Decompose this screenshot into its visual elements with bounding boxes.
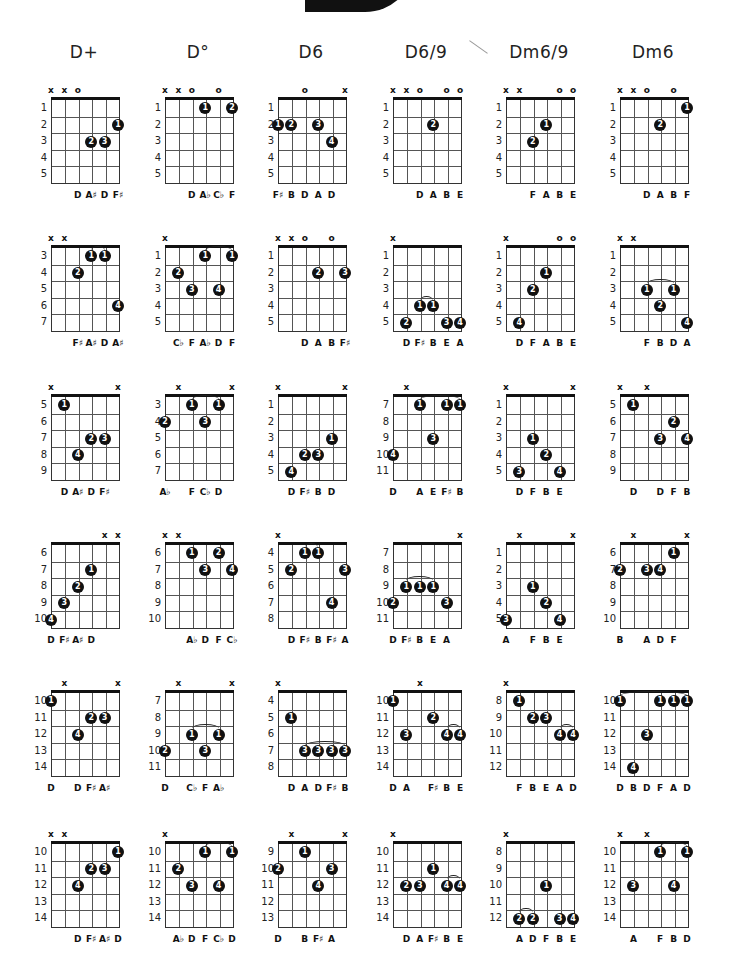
fret-number: 2	[371, 267, 389, 278]
fret-line	[621, 894, 688, 895]
chord-diagram: 89101112x12234ADFBE	[506, 844, 606, 954]
open-string-marker: o	[455, 85, 465, 95]
chord-diagram: 12345xxoo12FABE	[506, 100, 606, 210]
fret-number: 5	[598, 399, 616, 410]
muted-string-marker: x	[113, 530, 123, 540]
fret-line	[166, 281, 233, 282]
fret-line	[166, 430, 233, 431]
fret-line	[621, 166, 688, 167]
note-label: D	[626, 487, 640, 497]
column-title: D6	[256, 42, 366, 62]
finger-dot: 2	[72, 581, 84, 593]
nut	[165, 97, 234, 100]
nut	[278, 97, 347, 100]
fret-number: 3	[598, 283, 616, 294]
string-line	[106, 693, 107, 776]
fret-line	[279, 430, 346, 431]
note-label: E	[453, 190, 467, 200]
string-line	[179, 248, 180, 331]
note-label: A	[413, 934, 427, 944]
note-label: F♯	[71, 338, 85, 348]
chord-diagram: 1011121314xx1234DF♯A♯D	[51, 844, 151, 954]
finger-dot: 4	[654, 564, 666, 576]
string-line	[179, 100, 180, 183]
column-title: D6/9	[371, 42, 481, 62]
nut	[278, 841, 347, 844]
note-label: B	[667, 934, 681, 944]
finger-dot: 1	[668, 284, 680, 296]
muted-string-marker: x	[100, 530, 110, 540]
note-label: C♭	[212, 190, 226, 200]
fret-number: 10	[143, 846, 161, 857]
fret-line	[394, 910, 461, 911]
note-label: D	[399, 338, 413, 348]
note-label: D	[566, 783, 580, 793]
fret-line	[507, 759, 574, 760]
fret-number: 12	[484, 761, 502, 772]
string-line	[661, 100, 662, 183]
note-label: D	[185, 934, 199, 944]
fretboard-grid	[165, 545, 234, 629]
finger-dot: 4	[112, 300, 124, 312]
fret-number: 11	[484, 745, 502, 756]
finger-dot: 4	[554, 466, 566, 478]
chord-diagram: 45678x13333DADF♯B	[278, 693, 378, 803]
fret-line	[279, 894, 346, 895]
note-label: E	[453, 934, 467, 944]
chord-diagram: 7891011xx1123DC♭FA♭	[165, 693, 265, 803]
chord-diagram: 56789xx1234DDFB	[620, 397, 720, 507]
finger-dot: 3	[427, 433, 439, 445]
finger-dot: 1	[414, 300, 426, 312]
fret-number: 4	[29, 267, 47, 278]
muted-string-marker: x	[173, 382, 183, 392]
note-label: D	[198, 635, 212, 645]
note-label: F	[653, 783, 667, 793]
note-label: F♯	[338, 338, 352, 348]
fret-line	[621, 877, 688, 878]
fret-number: 4	[143, 300, 161, 311]
nut	[620, 394, 689, 397]
fret-number: 8	[598, 580, 616, 591]
fret-number: 14	[371, 912, 389, 923]
finger-dot: 3	[414, 880, 426, 892]
fret-number: 3	[256, 135, 274, 146]
open-string-marker: o	[300, 85, 310, 95]
note-label: D	[640, 783, 654, 793]
note-label: E	[553, 635, 567, 645]
open-string-marker: o	[327, 233, 337, 243]
fret-number: 13	[143, 896, 161, 907]
fret-line	[52, 894, 119, 895]
finger-dot: 4	[72, 729, 84, 741]
note-label: F	[212, 635, 226, 645]
note-label: B	[440, 934, 454, 944]
fret-line	[166, 743, 233, 744]
nut	[165, 690, 234, 693]
finger-dot: 1	[226, 846, 238, 858]
fret-number: 3	[484, 580, 502, 591]
muted-string-marker: x	[455, 530, 465, 540]
fret-number: 5	[29, 168, 47, 179]
finger-dot: 2	[159, 416, 171, 428]
finger-dot: 3	[326, 863, 338, 875]
fret-number: 8	[598, 449, 616, 460]
finger-dot: 1	[414, 399, 426, 411]
fret-number: 9	[484, 712, 502, 723]
finger-dot: 3	[99, 136, 111, 148]
fret-line	[394, 414, 461, 415]
fret-number: 5	[29, 283, 47, 294]
fret-number: 2	[256, 267, 274, 278]
fret-line	[507, 298, 574, 299]
finger-dot: 1	[186, 399, 198, 411]
note-label: D	[512, 338, 526, 348]
muted-string-marker: x	[59, 85, 69, 95]
muted-string-marker: x	[514, 85, 524, 95]
fret-line	[279, 414, 346, 415]
chord-diagram: 12345xxooo2DABE	[393, 100, 493, 210]
note-label: B	[553, 190, 567, 200]
muted-string-marker: x	[227, 382, 237, 392]
fret-line	[52, 166, 119, 167]
fret-line	[394, 562, 461, 563]
fret-number: 13	[371, 745, 389, 756]
fret-line	[507, 166, 574, 167]
finger-dot: 2	[213, 547, 225, 559]
